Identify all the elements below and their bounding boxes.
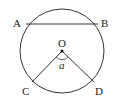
radius-oc [32,51,62,82]
center-point [60,49,63,52]
label-c: C [22,85,29,97]
radius-od [62,51,94,82]
label-d: D [95,85,103,97]
angle-label: a [59,59,65,71]
label-b: B [101,17,108,29]
label-a: A [13,17,21,29]
label-o: O [58,37,66,49]
circle-diagram: A B O C D a [0,0,119,106]
